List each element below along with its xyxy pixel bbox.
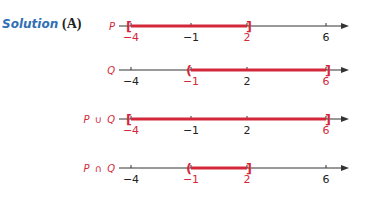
number-lines: P−4−126[]Q−4−126(]P ∪ Q−4−126[]P ∩ Q−4−1…: [0, 0, 373, 203]
tick-label: 2: [244, 75, 251, 88]
axis-arrow: [341, 116, 349, 122]
tick-label: 2: [244, 124, 251, 137]
right-endpoint-bracket: ]: [246, 161, 252, 176]
left-endpoint-bracket: [: [126, 112, 132, 127]
set-label: P ∪ Q: [83, 114, 116, 125]
right-endpoint-bracket: ]: [246, 19, 252, 34]
set-label: Q: [107, 65, 116, 76]
right-endpoint-bracket: ]: [325, 112, 331, 127]
tick-label: −4: [123, 173, 139, 186]
set-label: P: [109, 21, 116, 32]
left-endpoint-bracket: [: [126, 19, 132, 34]
axis-arrow: [341, 23, 349, 29]
left-endpoint-bracket: (: [186, 161, 192, 176]
axis-arrow: [341, 67, 349, 73]
set-label: P ∩ Q: [83, 163, 116, 174]
axis-arrow: [341, 165, 349, 171]
tick-label: −4: [123, 75, 139, 88]
tick-label: 6: [323, 31, 330, 44]
tick-label: −1: [183, 31, 199, 44]
right-endpoint-bracket: ]: [325, 63, 331, 78]
tick-label: −1: [183, 124, 199, 137]
left-endpoint-bracket: (: [186, 63, 192, 78]
tick-label: 6: [323, 173, 330, 186]
